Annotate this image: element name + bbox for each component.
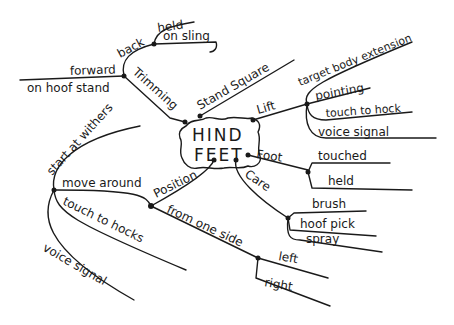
label-move-around: move around <box>62 176 142 190</box>
label-pointing: pointing <box>314 81 365 103</box>
label-touched: touched <box>318 149 367 163</box>
branch-label-care: Care <box>242 167 273 194</box>
line-on-sling <box>154 42 217 52</box>
branch-label-position: Position <box>151 168 199 201</box>
label-hoof-pick: hoof pick <box>300 217 355 231</box>
label-brush: brush <box>312 197 346 211</box>
label-voice-signal-position: voice signal <box>41 240 110 288</box>
center-title-line1: HIND <box>192 125 244 145</box>
label-touch-to-hocks: touch to hocks <box>61 194 146 245</box>
label-forward: forward <box>70 62 116 78</box>
label-back: back <box>115 35 147 61</box>
label-on-hoof-stand: on hoof stand <box>27 81 110 95</box>
node-dot <box>198 114 203 119</box>
label-held-foot: held <box>328 174 354 188</box>
node-dot <box>212 158 217 163</box>
label-touch-to-hock: touch to hock <box>325 102 402 120</box>
node-dot <box>251 118 256 123</box>
line-held-foot <box>308 172 412 190</box>
node-dot <box>246 153 251 158</box>
label-start-at-withers: start at withers <box>44 101 116 178</box>
label-voice-signal-lift: voice signal <box>318 125 389 139</box>
node-dot <box>183 120 188 125</box>
label-from-one-side: from one side <box>165 202 246 250</box>
branch-line-stand-square <box>200 60 294 116</box>
label-target-body-extension: target body extension <box>296 31 413 88</box>
node-dot <box>234 158 239 163</box>
label-right: right <box>263 275 293 294</box>
line-touched <box>308 163 390 172</box>
mind-map: HIND FEET Trimming forward on hoof stand… <box>0 0 454 325</box>
label-on-sling: on sling <box>163 29 210 43</box>
label-spray: spray <box>306 232 339 246</box>
